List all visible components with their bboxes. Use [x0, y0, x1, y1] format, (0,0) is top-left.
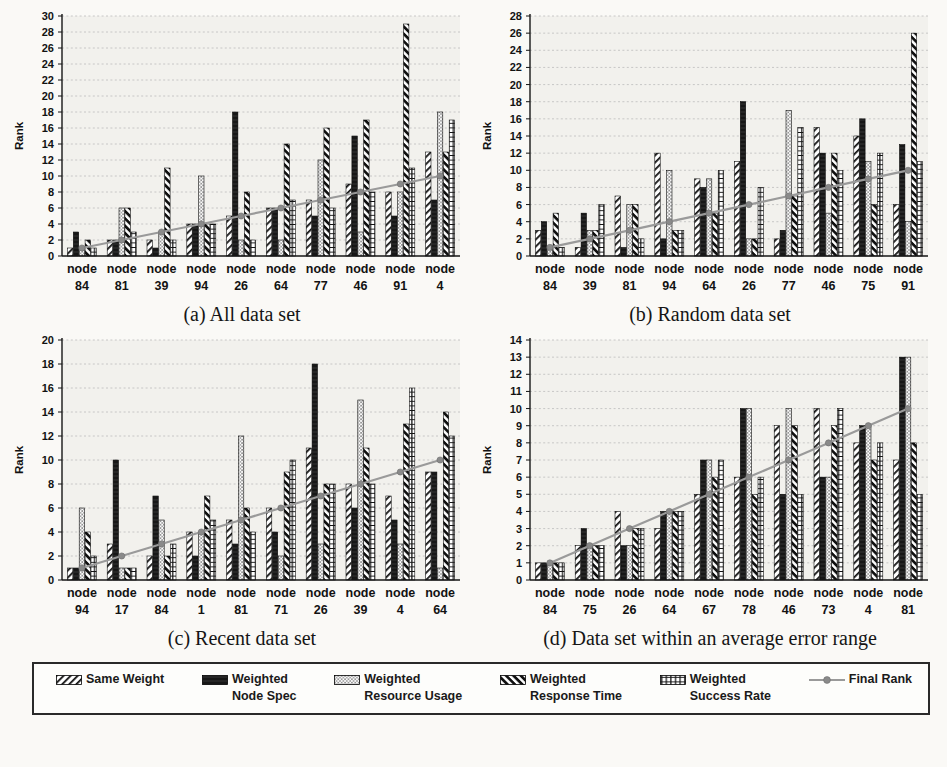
bar-s3-n3	[673, 230, 678, 256]
bar-s0-n2	[615, 511, 620, 580]
bar-s2-n3	[199, 176, 204, 256]
bar-s4-n6	[330, 208, 335, 256]
bar-s3-n2	[165, 556, 170, 580]
chart-d-svg: 01234567891011121314node84node75node26no…	[478, 330, 938, 626]
bar-s2-n9	[437, 568, 442, 580]
svg-text:26: 26	[510, 27, 522, 39]
bar-s1-n7	[352, 136, 357, 256]
bar-s4-n6	[330, 484, 335, 580]
bar-s2-n1	[119, 208, 124, 256]
bar-s1-n7	[352, 508, 357, 580]
bar-s1-n2	[153, 496, 158, 580]
svg-text:73: 73	[822, 603, 836, 617]
bar-s4-n5	[290, 460, 295, 580]
svg-text:46: 46	[354, 279, 368, 293]
bar-s1-n9	[432, 472, 437, 580]
legend-item-final-rank: Final Rank	[809, 671, 912, 705]
bar-s1-n3	[661, 239, 666, 256]
svg-text:8: 8	[48, 186, 54, 198]
bar-s0-n2	[615, 196, 620, 256]
svg-text:node: node	[615, 262, 645, 276]
bar-s1-n5	[740, 102, 745, 256]
bar-s3-n8	[872, 205, 877, 256]
bar-s2-n5	[746, 239, 751, 256]
bar-s3-n1	[125, 208, 130, 256]
legend-item-same-weight: Same Weight	[56, 671, 164, 705]
svg-text:10: 10	[510, 403, 522, 415]
bar-s2-n1	[119, 568, 124, 580]
svg-text:Rank: Rank	[13, 121, 25, 150]
bar-s3-n7	[364, 448, 369, 580]
legend-label-success-rate: Weighted	[690, 671, 746, 688]
svg-text:81: 81	[901, 603, 915, 617]
svg-text:node: node	[67, 262, 97, 276]
svg-text:node: node	[266, 262, 296, 276]
bar-s3-n0	[553, 213, 558, 256]
bar-s1-n1	[113, 460, 118, 580]
chart-panel-c: 02468101214161820node94node17node84node1…	[10, 330, 474, 652]
bar-s0-n1	[107, 544, 112, 580]
bar-s1-n5	[740, 409, 745, 580]
svg-text:81: 81	[234, 603, 248, 617]
svg-text:node: node	[654, 262, 684, 276]
bar-s1-n6	[312, 216, 317, 256]
bar-s1-n9	[900, 145, 905, 256]
bar-s4-n9	[449, 436, 454, 580]
bar-s1-n5	[272, 208, 277, 256]
svg-text:node: node	[853, 262, 883, 276]
bar-s4-n1	[131, 568, 136, 580]
bar-s3-n8	[404, 24, 409, 256]
bar-s2-n3	[199, 532, 204, 580]
bar-s2-n2	[627, 546, 632, 580]
bar-s2-n1	[587, 546, 592, 580]
svg-text:26: 26	[623, 603, 637, 617]
svg-text:12: 12	[510, 368, 522, 380]
bar-s2-n3	[667, 170, 672, 256]
svg-text:node: node	[734, 262, 764, 276]
svg-text:13: 13	[510, 351, 522, 363]
bar-s3-n0	[553, 563, 558, 580]
svg-text:node: node	[107, 262, 137, 276]
svg-text:22: 22	[42, 74, 54, 86]
svg-text:node: node	[734, 586, 764, 600]
svg-text:node: node	[814, 586, 844, 600]
legend-label-node-spec: Weighted	[232, 671, 288, 688]
svg-text:node: node	[346, 262, 376, 276]
bar-s0-n3	[655, 153, 660, 256]
bar-s4-n4	[250, 240, 255, 256]
svg-text:91: 91	[393, 279, 407, 293]
svg-text:node: node	[575, 262, 605, 276]
svg-text:2: 2	[516, 540, 522, 552]
bar-s4-n8	[409, 388, 414, 580]
svg-text:84: 84	[543, 603, 557, 617]
svg-text:node: node	[853, 586, 883, 600]
bar-s4-n9	[449, 120, 454, 256]
bar-s0-n9	[426, 472, 431, 580]
svg-text:0: 0	[48, 574, 54, 586]
svg-text:3: 3	[516, 523, 522, 535]
svg-text:46: 46	[822, 279, 836, 293]
bar-s0-n8	[854, 443, 859, 580]
bar-s4-n0	[91, 556, 96, 580]
bar-s2-n7	[826, 213, 831, 256]
svg-text:4: 4	[516, 216, 523, 228]
svg-text:81: 81	[115, 279, 129, 293]
svg-text:4: 4	[865, 603, 872, 617]
figure-legend: Same Weight Weighted Node Spec Weighted …	[32, 662, 930, 715]
bar-s3-n6	[324, 128, 329, 256]
bar-s4-n6	[798, 494, 803, 580]
svg-text:94: 94	[194, 279, 208, 293]
svg-text:20: 20	[42, 334, 54, 346]
bar-s3-n3	[205, 224, 210, 256]
bar-s3-n6	[324, 484, 329, 580]
chart-c-canvas: 02468101214161820node94node17node84node1…	[10, 330, 470, 626]
svg-text:node: node	[147, 262, 177, 276]
legend-item-weighted-response-time: Weighted Response Time	[500, 671, 622, 705]
legend-label2-success-rate: Success Rate	[690, 688, 771, 705]
svg-text:14: 14	[42, 138, 55, 150]
bar-s0-n7	[814, 409, 819, 580]
svg-text:node: node	[425, 586, 455, 600]
svg-text:64: 64	[433, 603, 447, 617]
bar-s0-n4	[227, 520, 232, 580]
bar-s4-n5	[758, 187, 763, 256]
